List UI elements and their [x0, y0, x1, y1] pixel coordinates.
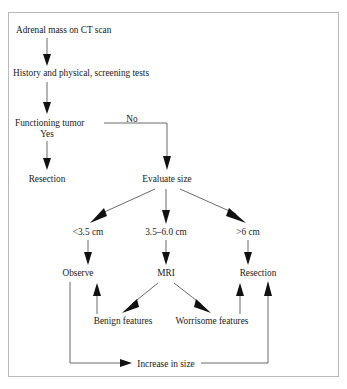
arrowhead-evaluate-to-large [226, 208, 246, 223]
node-size-large: >6 cm [236, 227, 260, 237]
edge-label-no: No [126, 114, 138, 124]
edge-evaluate-to-large [180, 189, 236, 214]
arrowhead-mri-to-benign [122, 299, 139, 313]
arrowhead-benign-to-observe [93, 283, 101, 296]
node-size-small: <3.5 cm [73, 227, 104, 237]
arrowhead-observe-to-increase-in-size [120, 359, 132, 367]
edge-evaluate-to-small [100, 189, 155, 214]
arrowhead-increase-in-size-to-resection [264, 281, 272, 296]
node-increase-in-size: Increase in size [137, 359, 194, 369]
node-mri: MRI [157, 268, 175, 278]
arrowhead-evaluate-to-medium [162, 210, 170, 224]
node-history-physical: History and physical, screening tests [13, 68, 149, 78]
node-resection-bottom: Resection [240, 268, 277, 278]
arrowhead-medium-to-mri [162, 252, 170, 265]
node-worrisome-features: Worrisome features [176, 316, 249, 326]
node-size-medium: 3.5–6.0 cm [145, 227, 187, 237]
arrowhead-adrenal-to-history [43, 54, 51, 66]
edge-label-yes: Yes [40, 129, 54, 139]
arrowhead-mri-to-worrisome [194, 299, 211, 313]
arrowhead-yes-to-resection [43, 158, 51, 170]
flowchart-canvas: Adrenal mass on CT scan History and phys… [0, 0, 347, 389]
arrowhead-history-to-functioning [43, 102, 51, 114]
node-evaluate-size: Evaluate size [142, 174, 191, 184]
node-functioning-tumor: Functioning tumor [15, 118, 85, 128]
arrowhead-small-to-observe [84, 252, 92, 265]
arrowhead-evaluate-to-small [90, 208, 107, 223]
arrowhead-no-to-evaluate-size [163, 156, 171, 170]
node-observe: Observe [63, 268, 94, 278]
edge-no-to-evaluate-size [104, 123, 167, 158]
node-resection-top: Resection [29, 174, 66, 184]
node-benign-features: Benign features [94, 316, 153, 326]
edge-increase-in-size-to-resection [201, 294, 268, 363]
arrowhead-worrisome-to-resection [236, 283, 244, 296]
arrowhead-large-to-resection [244, 252, 252, 265]
node-adrenal-mass: Adrenal mass on CT scan [16, 25, 112, 35]
